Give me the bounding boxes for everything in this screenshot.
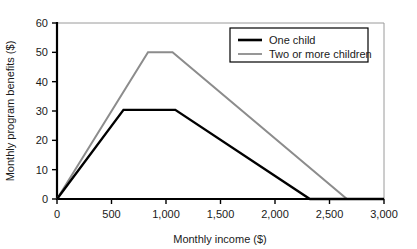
y-tick-label: 10	[36, 164, 48, 176]
x-tick-label: 3,000	[370, 208, 398, 220]
y-tick-label: 0	[42, 193, 48, 205]
x-tick-label: 1,500	[207, 208, 235, 220]
x-axis-ticks: 05001,0001,5002,0002,5003,000	[54, 199, 398, 220]
chart-legend[interactable]: One childTwo or more children	[230, 28, 372, 62]
y-tick-label: 30	[36, 105, 48, 117]
y-tick-label: 60	[36, 17, 48, 29]
y-tick-label: 50	[36, 46, 48, 58]
x-tick-label: 2,500	[316, 208, 344, 220]
legend-label: One child	[269, 34, 315, 46]
x-tick-label: 1,000	[152, 208, 180, 220]
y-axis-title: Monthly program benefits ($)	[4, 41, 16, 182]
y-axis-ticks: 0102030405060	[36, 17, 57, 205]
legend-label: Two or more children	[269, 48, 372, 60]
data-series-group	[57, 52, 384, 199]
x-tick-label: 0	[54, 208, 60, 220]
x-tick-label: 500	[102, 208, 120, 220]
x-tick-label: 2,000	[261, 208, 289, 220]
line-chart: 0102030405060 05001,0001,5002,0002,5003,…	[0, 0, 417, 249]
chart-container: 0102030405060 05001,0001,5002,0002,5003,…	[0, 0, 417, 249]
series-line	[57, 52, 384, 199]
x-axis-title: Monthly income ($)	[173, 233, 267, 245]
series-line	[57, 110, 384, 199]
y-tick-label: 40	[36, 76, 48, 88]
y-tick-label: 20	[36, 134, 48, 146]
